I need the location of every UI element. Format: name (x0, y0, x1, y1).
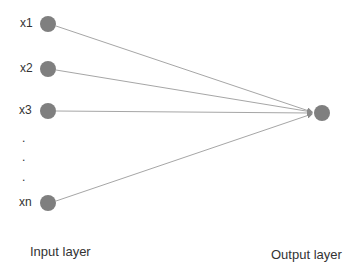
ellipsis-dot: . (22, 131, 25, 145)
label-x3: x3 (19, 103, 32, 117)
label-x2: x2 (20, 61, 33, 75)
ellipsis-dot: . (22, 170, 25, 184)
label-xn: xn (19, 195, 32, 209)
output-node (314, 105, 330, 121)
edges (56, 26, 312, 201)
edge-x2 (56, 70, 312, 112)
input-node-xn (40, 195, 56, 211)
input-layer-label: Input layer (30, 244, 91, 259)
output-layer-label: Output layer (271, 247, 342, 262)
network-diagram (0, 0, 360, 262)
label-x1: x1 (20, 16, 33, 30)
edge-x3 (56, 111, 312, 113)
input-node-x1 (40, 16, 56, 32)
ellipsis-dot: . (22, 150, 25, 164)
input-node-x2 (40, 61, 56, 77)
input-node-x3 (40, 103, 56, 119)
edge-x1 (56, 26, 312, 112)
edge-xn (56, 114, 312, 201)
